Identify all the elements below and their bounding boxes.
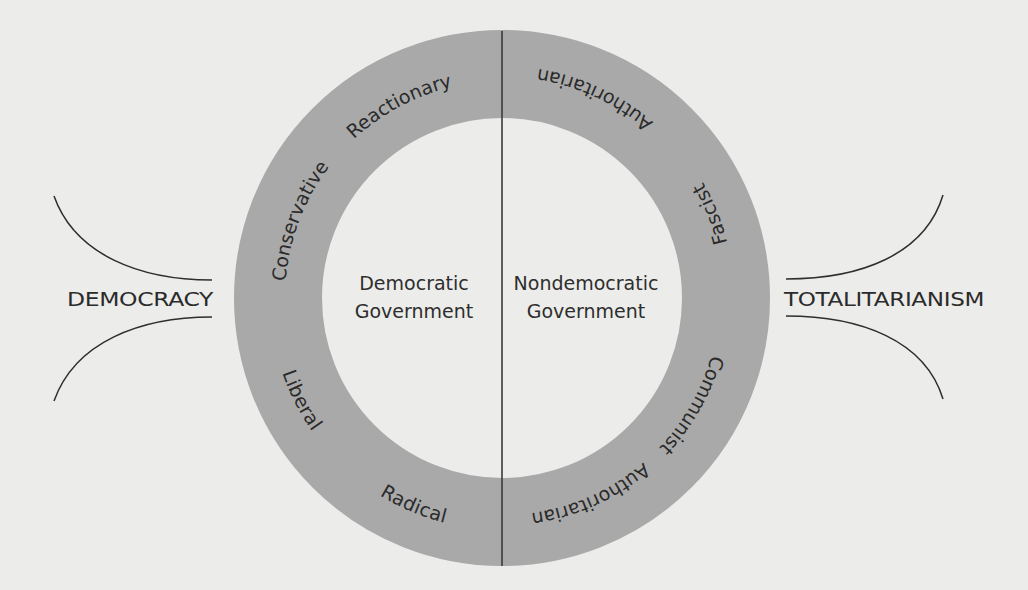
democratic-government-line1: Democratic: [359, 272, 469, 294]
right-curve-bottom: [786, 316, 943, 399]
nondemocratic-government-line2: Government: [527, 300, 646, 322]
democratic-government-line2: Government: [355, 300, 474, 322]
political-spectrum-diagram: DEMOCRACY TOTALITARIANISM Democratic Gov…: [0, 0, 1028, 590]
right-curve-top: [786, 195, 943, 279]
left-curve-bottom: [54, 317, 212, 401]
totalitarianism-label: TOTALITARIANISM: [783, 288, 984, 310]
nondemocratic-government-line1: Nondemocratic: [514, 272, 659, 294]
left-curve-top: [54, 196, 212, 280]
democracy-label: DEMOCRACY: [67, 288, 214, 310]
diagram-canvas: DEMOCRACY TOTALITARIANISM Democratic Gov…: [0, 0, 1028, 590]
